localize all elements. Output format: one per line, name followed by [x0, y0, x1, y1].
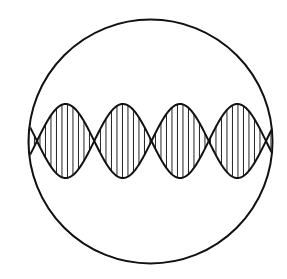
diagram-canvas: [0, 0, 287, 279]
hatching: [18, 104, 282, 178]
envelope-curve-lower: [17, 104, 286, 178]
standing-wave-diagram: [0, 0, 287, 279]
wave-envelope: [17, 104, 286, 178]
